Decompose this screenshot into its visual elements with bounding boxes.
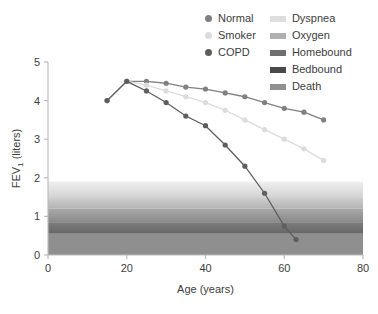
x-tick-label: 60	[278, 262, 290, 274]
data-point-smoker	[282, 137, 287, 142]
y-tick-label: 1	[34, 210, 40, 222]
data-point-smoker	[164, 88, 169, 93]
data-point-normal	[223, 90, 228, 95]
x-tick-label: 40	[199, 262, 211, 274]
data-point-copd	[242, 164, 247, 169]
band-homebound	[48, 209, 363, 223]
disability-bands	[48, 182, 363, 255]
data-point-smoker	[262, 127, 267, 132]
data-point-smoker	[203, 100, 208, 105]
data-point-normal	[321, 117, 326, 122]
x-axis-title: Age (years)	[177, 283, 234, 295]
y-tick-label: 3	[34, 133, 40, 145]
data-point-normal	[242, 94, 247, 99]
axis-labels: 012345020406080Age (years)FEV1 (liters)	[10, 56, 369, 295]
data-point-copd	[223, 142, 228, 147]
data-point-smoker	[183, 94, 188, 99]
data-point-normal	[164, 81, 169, 86]
data-point-normal	[183, 84, 188, 89]
data-point-normal	[203, 86, 208, 91]
y-tick-label: 0	[34, 249, 40, 261]
plot-area: 012345020406080Age (years)FEV1 (liters)	[0, 0, 378, 314]
data-point-copd	[203, 123, 208, 128]
x-tick-label: 80	[357, 262, 369, 274]
data-point-normal	[262, 100, 267, 105]
data-point-smoker	[144, 83, 149, 88]
data-point-normal	[282, 106, 287, 111]
chart-figure: Normal Smoker COPD Dyspnea Oxygen	[0, 0, 378, 314]
data-point-smoker	[321, 158, 326, 163]
data-point-copd	[164, 100, 169, 105]
data-point-copd	[282, 223, 287, 228]
band-dyspnea	[48, 182, 363, 197]
data-point-smoker	[242, 117, 247, 122]
data-point-smoker	[223, 108, 228, 113]
data-point-copd	[104, 98, 109, 103]
data-point-smoker	[301, 146, 306, 151]
band-death	[48, 234, 363, 255]
band-bedbound	[48, 222, 363, 234]
x-tick-label: 0	[45, 262, 51, 274]
data-point-copd	[293, 237, 298, 242]
series-line-smoker	[107, 81, 324, 160]
y-tick-label: 2	[34, 172, 40, 184]
y-axis-title: FEV1 (liters)	[10, 129, 25, 188]
data-point-normal	[301, 110, 306, 115]
band-oxygen	[48, 197, 363, 209]
data-point-copd	[124, 79, 129, 84]
y-tick-label: 5	[34, 56, 40, 68]
data-point-copd	[183, 113, 188, 118]
y-tick-label: 4	[34, 95, 40, 107]
data-point-copd	[144, 88, 149, 93]
data-point-copd	[262, 191, 267, 196]
x-tick-label: 20	[121, 262, 133, 274]
